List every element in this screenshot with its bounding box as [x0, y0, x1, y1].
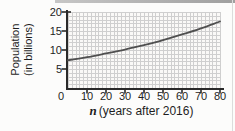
x-axis-variable: n [90, 103, 97, 118]
population-curve [68, 22, 220, 61]
population-growth-chart: Population (in billions) 5101520 0102030… [0, 0, 235, 131]
y-tick-label: 20 [38, 6, 62, 19]
x-axis-title-text: (years after 2016) [99, 104, 194, 118]
origin-label: 0 [50, 90, 72, 103]
y-tick-label: 5 [38, 63, 62, 76]
y-tick-label: 10 [38, 44, 62, 57]
y-tick-label: 15 [38, 25, 62, 38]
x-tick-label: 80 [209, 90, 231, 103]
x-axis-title: n(years after 2016) [0, 103, 235, 119]
